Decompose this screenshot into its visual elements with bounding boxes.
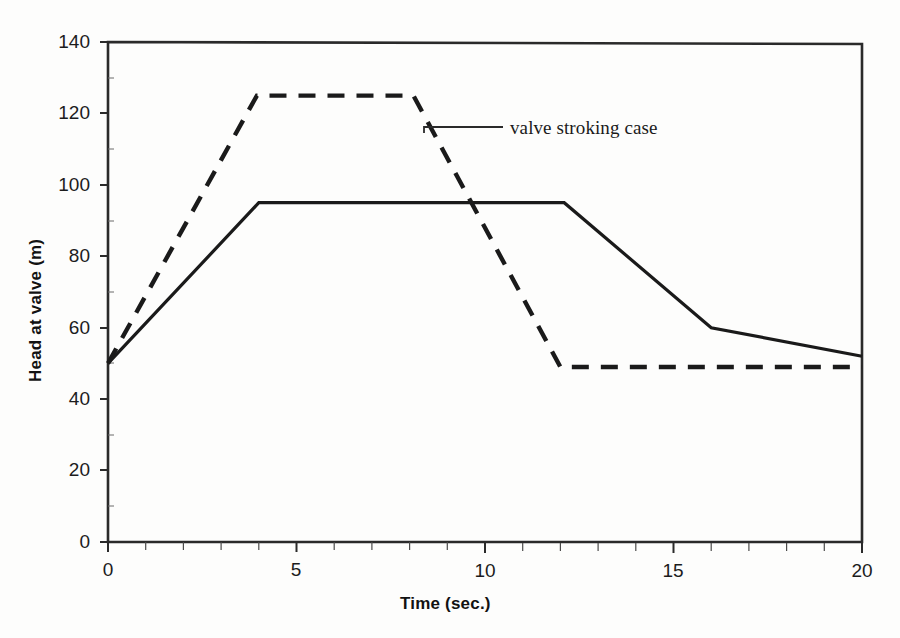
y-tick-label-20: 20 <box>30 460 90 479</box>
x-tick-label-20: 20 <box>832 561 892 580</box>
y-tick-label-140: 140 <box>30 32 90 51</box>
axes-frame <box>108 42 862 542</box>
y-tick-label-40: 40 <box>30 389 90 408</box>
y-tick-label-120: 120 <box>30 103 90 122</box>
axes-box-outline <box>108 42 862 542</box>
series-line-valve-stroking-case <box>108 96 862 367</box>
x-axis-title: Time (sec.) <box>400 594 491 614</box>
y-tick-label-100: 100 <box>30 175 90 194</box>
annotation-valve-stroking-case: valve stroking case <box>510 117 658 139</box>
chart-figure: 140 120 100 80 60 40 20 0 0 5 10 15 20 T… <box>0 0 900 638</box>
x-axis-ticks <box>108 542 862 553</box>
x-tick-label-10: 10 <box>455 561 515 580</box>
plot-area <box>0 0 900 638</box>
annotation-leader-line <box>424 127 503 133</box>
x-tick-label-5: 5 <box>266 560 326 579</box>
x-tick-label-15: 15 <box>643 561 703 580</box>
y-axis-title: Head at valve (m) <box>26 239 46 382</box>
y-tick-label-0: 0 <box>30 532 90 551</box>
x-tick-label-0: 0 <box>78 560 138 579</box>
